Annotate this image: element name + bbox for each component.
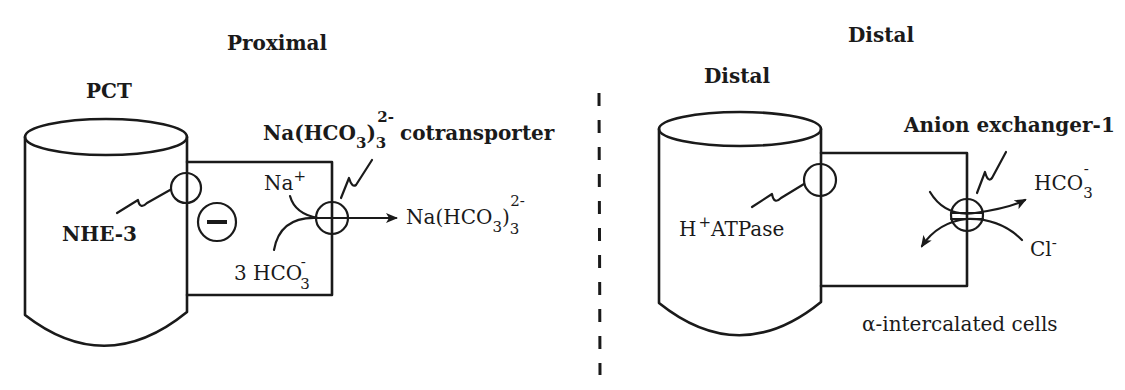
distal-panel: Distal Distal H+ATPase Anion exchanger-1… (659, 23, 1115, 336)
hco3-input-label: 3 HCO3- (234, 253, 310, 293)
distal-segment-label: Distal (704, 64, 770, 88)
kidney-bicarbonate-diagram: Proximal PCT NHE-3 Na+ 3 HCO3- (0, 0, 1125, 390)
cl-influx-arrow (922, 219, 1022, 246)
anion-exchanger-label: Anion exchanger-1 (903, 113, 1115, 137)
alpha-intercalated-cell-box (821, 153, 967, 286)
na-flux-path (290, 196, 318, 218)
cotransporter-label: Na(HCO3)32-cotransporter (263, 108, 555, 152)
h-atpase-pump-icon (752, 164, 836, 207)
proximal-panel: Proximal PCT NHE-3 Na+ 3 HCO3- (25, 31, 555, 346)
na-ion-label: Na+ (264, 167, 306, 195)
pct-label: PCT (86, 79, 132, 103)
nhe3-transporter-icon (117, 173, 201, 213)
proximal-title: Proximal (227, 31, 328, 55)
section-divider (599, 93, 600, 375)
h-atpase-label: H+ATPase (679, 213, 784, 241)
nbc-cotransporter-icon (316, 160, 372, 234)
nhe3-label: NHE-3 (62, 222, 137, 246)
distal-title: Distal (848, 23, 914, 47)
negative-charge-icon (198, 203, 236, 241)
hco3-output-label: HCO3- (1034, 160, 1093, 202)
cl-ion-label: Cl- (1030, 234, 1057, 261)
bicarbonate-output-label: Na(HCO3)32- (406, 192, 525, 238)
hco3-flux-path (274, 218, 318, 250)
alpha-intercalated-cells-label: α-intercalated cells (862, 312, 1058, 336)
